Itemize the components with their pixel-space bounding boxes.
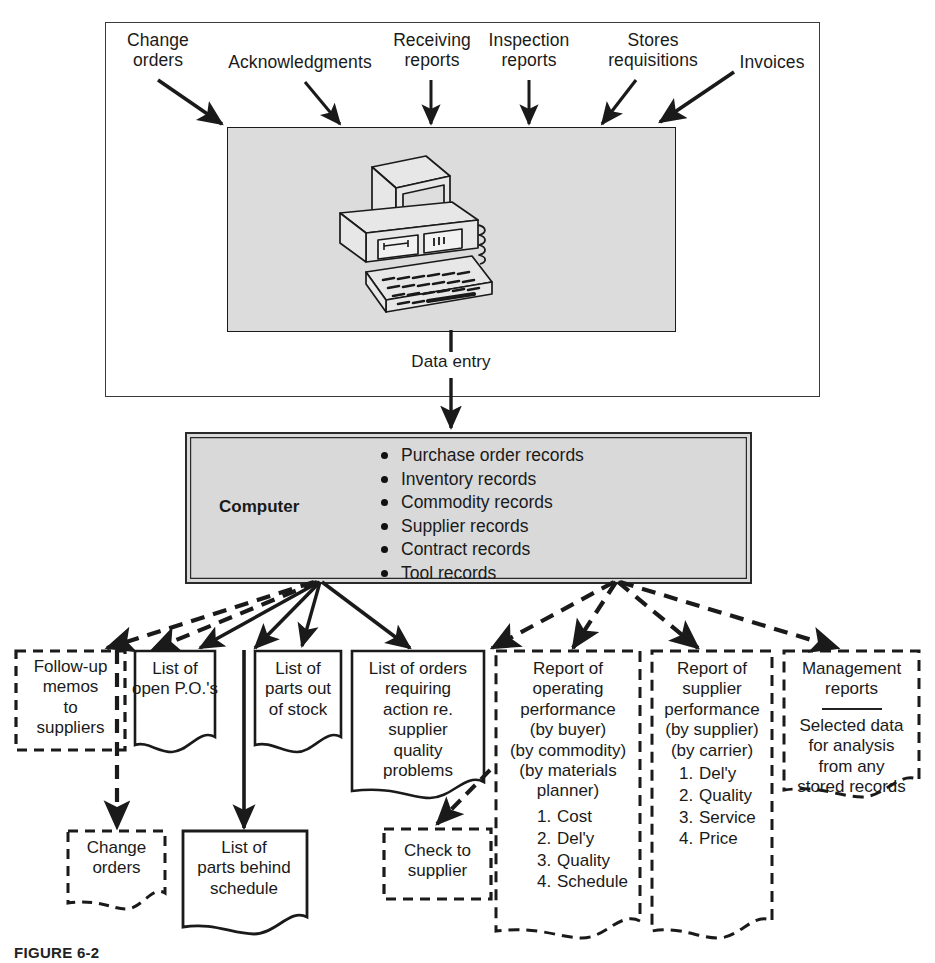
input-label-acknowledgments: Acknowledgments [205,52,395,72]
arrow-to-operating-performance [573,582,616,648]
label-operating-performance: Report of operating performance (by buye… [494,659,642,802]
numbered-item: 3.Quality [537,850,628,872]
label-parts-behind-schedule: List of parts behind schedule [181,838,307,899]
data-entry-label: Data entry [386,352,516,372]
input-label-stores-requisitions: Stores requisitions [583,30,723,71]
computer-records-list: Purchase order records Inventory records… [378,444,584,585]
record-item: Inventory records [378,468,584,492]
computer-label: Computer [219,497,299,517]
record-item: Commodity records [378,491,584,515]
arrow-to-supplier-performance [618,582,698,648]
record-item: Supplier records [378,515,584,539]
input-label-receiving-reports: Receiving reports [379,30,485,71]
data-entry-panel [227,127,676,332]
arrow-to-follow-up-memos [107,582,314,648]
label-management-reports: Management reports [784,659,919,700]
record-item: Purchase order records [378,444,584,468]
numbered-item: 1.Del'y [679,763,756,785]
management-reports-divider [822,708,882,710]
arrow-to-open-pos [200,582,319,648]
input-label-inspection-reports: Inspection reports [472,30,586,71]
label-parts-out-of-stock: List of parts out of stock [251,659,345,720]
arrow-to-orders-requiring-action [322,582,410,648]
numbered-list-supplier-performance: 1.Del'y 2.Quality 3.Service 4.Price [679,763,756,850]
label-supplier-performance: Report of supplier performance (by suppl… [650,659,774,761]
input-label-invoices: Invoices [728,52,816,72]
label-management-reports-detail: Selected data for analysis from any stor… [781,716,922,798]
label-orders-requiring-action: List of orders requiring action re. supp… [350,659,486,781]
numbered-item: 3.Service [679,807,756,829]
figure-caption: FIGURE 6-2 [14,944,100,961]
arrow-to-parts-behind-schedule [302,582,320,646]
arrow-to-check-to-supplier-branch [492,582,614,648]
numbered-item: 1.Cost [537,806,628,828]
numbered-item: 4.Schedule [537,871,628,893]
input-label-change-orders: Change orders [112,30,204,71]
label-change-orders-out: Change orders [68,838,165,879]
figure-canvas: Computer Purchase order records Inventor… [0,0,935,963]
record-item: Tool records [378,562,584,586]
label-open-pos: List of open P.O.'s [131,659,219,700]
record-item: Contract records [378,538,584,562]
arrow-to-parts-out-of-stock [255,582,320,648]
arrow-to-management-reports [620,582,838,648]
arrow-to-change-orders-branch [152,582,317,650]
numbered-item: 2.Del'y [537,828,628,850]
numbered-list-operating-performance: 1.Cost 2.Del'y 3.Quality 4.Schedule [537,806,628,893]
label-check-to-supplier: Check to supplier [384,841,491,882]
numbered-item: 4.Price [679,828,756,850]
numbered-item: 2.Quality [679,785,756,807]
label-follow-up-memos: Follow-up memos to suppliers [16,657,125,739]
